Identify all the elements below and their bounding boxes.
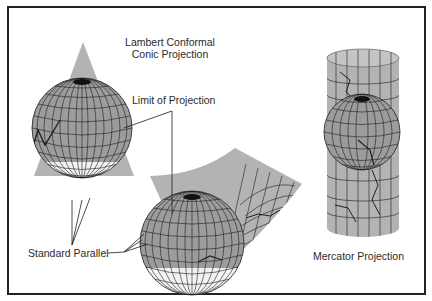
- standard-parallel-label: Standard Parallel: [28, 247, 109, 259]
- mercator-globe: [324, 94, 400, 170]
- lambert-conic-title: Lambert Conformal Conic Projection: [115, 36, 225, 60]
- mercator-projection-label: Mercator Projection: [313, 250, 404, 262]
- lambert-title-line2: Conic Projection: [115, 48, 225, 60]
- limit-of-projection-label: Limit of Projection: [132, 94, 215, 106]
- lambert-title-line1: Lambert Conformal: [115, 36, 225, 48]
